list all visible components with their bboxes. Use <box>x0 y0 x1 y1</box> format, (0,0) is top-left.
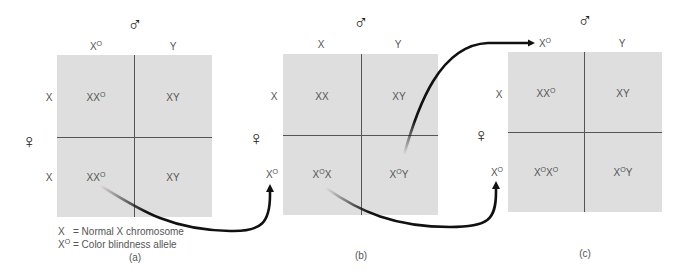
inheritance-arrows <box>0 0 682 277</box>
arrow-a-to-b <box>101 186 270 231</box>
arrowhead-icon <box>528 40 535 47</box>
arrowhead-icon <box>492 181 500 189</box>
arrow-b-to-c-female <box>326 188 496 227</box>
arrow-b-to-c <box>404 43 528 155</box>
arrowhead-icon <box>266 184 274 192</box>
